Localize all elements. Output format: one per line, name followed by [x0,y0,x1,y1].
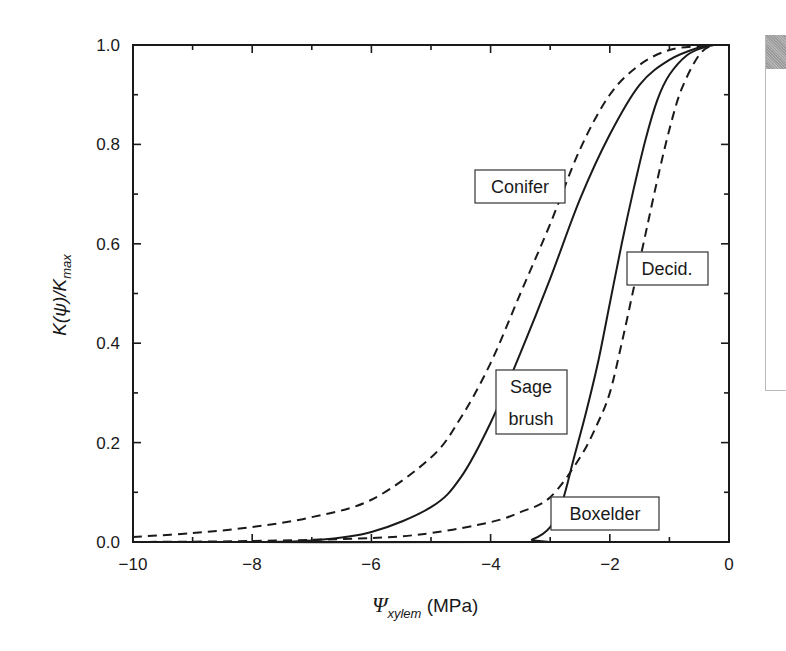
y-tick-label: 0.4 [96,334,120,353]
x-tick-label: −4 [481,555,500,574]
y-axis-title: K(ψ)/Kmax [49,254,74,336]
svg-text:Conifer: Conifer [491,177,549,197]
axis-tick-labels: −10 −8 −6 −4 −2 0 0.0 0.2 0.4 0.6 0.8 1.… [96,36,733,574]
x-tick-label: −10 [119,555,148,574]
svg-text:Decid.: Decid. [641,259,692,279]
label-decid: Decid. [627,252,708,285]
curve-decid [133,45,729,542]
label-boxelder: Boxelder [551,497,659,530]
y-tick-label: 1.0 [96,36,120,55]
x-tick-label: −6 [361,555,380,574]
curve-sage-brush [133,45,729,542]
side-panel [765,35,786,391]
svg-text:Boxelder: Boxelder [569,504,640,524]
x-axis-title: Ψxylem (MPa) [372,592,478,621]
y-tick-label: 0.6 [96,235,120,254]
curve-boxelder [133,45,729,542]
curves [133,45,729,542]
x-tick-label: 0 [724,555,733,574]
y-tick-label: 0.0 [96,533,120,552]
y-tick-label: 0.2 [96,434,120,453]
svg-text:brush: brush [508,409,553,429]
svg-text:Sage: Sage [510,377,552,397]
y-tick-label: 0.8 [96,135,120,154]
x-tick-label: −8 [242,555,261,574]
label-conifer: Conifer [475,170,565,203]
side-panel-header [766,35,786,69]
label-sage-brush: Sage brush [496,370,567,434]
curve-conifer [133,45,729,537]
plot-frame [133,45,729,542]
axis-ticks [133,45,729,542]
x-tick-label: −2 [600,555,619,574]
